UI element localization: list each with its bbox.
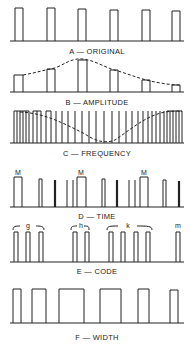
pulse [109,232,113,262]
panel-label: F — WIDTH [75,333,119,342]
pulse [110,70,118,92]
marker-label: M [141,169,147,176]
pulse [146,232,150,262]
code-group-label: m [175,222,181,229]
pulse [170,290,178,323]
pulse [13,289,21,323]
pulse [39,179,42,207]
pulse [176,232,180,262]
marker-pulse [14,177,22,207]
pulse [14,75,23,92]
pulse [59,289,84,323]
pulse [110,10,118,41]
code-group-label: h [79,222,83,229]
panel-b-amplitude: B — AMPLITUDE [10,59,184,107]
panel-e-code: g h k m E — CODE [10,222,184,276]
panel-label: B — AMPLITUDE [65,98,128,107]
panel-d-time: M M M D — TIME [10,169,184,221]
code-group-label: k [126,222,130,229]
modulating-curve [20,111,182,142]
pulse [142,10,150,41]
pulse [172,11,180,41]
panel-label: D — TIME [78,212,115,221]
pulse [47,69,55,92]
pulse-modulation-diagram: A — ORIGINAL B — AMPLITUDE [0,0,191,350]
panel-label: E — CODE [77,267,118,276]
pulse [39,232,43,262]
pulse [172,85,180,92]
pulse [100,289,121,323]
pulse [47,8,55,41]
pulse [26,232,30,262]
frequency-pulses [14,111,182,143]
pulse [121,232,125,262]
marker-label: M [78,169,84,176]
panel-label: C — FREQUENCY [63,149,131,158]
pulse [15,8,23,41]
panel-f-width: F — WIDTH [10,289,184,342]
pulse [85,232,89,262]
pulse [78,9,86,41]
pulse [134,232,138,262]
panel-label: A — ORIGINAL [69,47,125,56]
pulse [32,289,46,323]
pulse [138,289,149,323]
panel-c-frequency: C — FREQUENCY [10,111,184,158]
marker-pulse [140,177,148,207]
marker-label: M [15,169,21,176]
pulse [142,80,150,92]
pulse [14,232,18,262]
pulse [73,232,77,262]
panel-a-original: A — ORIGINAL [10,8,184,56]
code-group-label: g [26,222,30,230]
pulse [78,60,87,92]
pulse [102,179,105,207]
pulse [163,180,166,207]
marker-pulse [77,177,86,207]
